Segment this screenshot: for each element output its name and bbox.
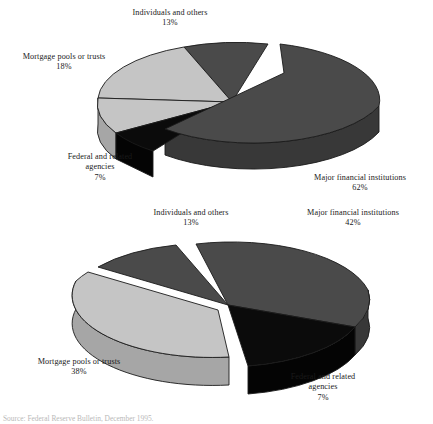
bottom-label-mortgage-pools-or-trusts: Mortgage pools or trusts 38%: [8, 357, 150, 378]
top-label-mortgage-pct: 18%: [1, 62, 127, 72]
top-label-individuals-and-others: Individuals and others 13%: [99, 8, 241, 29]
bottom-label-mortgage-name: Mortgage pools or trusts: [38, 357, 121, 366]
top-label-federal-pct: 7%: [40, 173, 160, 183]
bottom-label-major-name: Major financial institutions: [307, 208, 399, 217]
bottom-label-federal-and-related-agencies: Federal and related agencies 7%: [260, 372, 386, 403]
bottom-label-federal-pct: 7%: [260, 393, 386, 403]
top-label-mortgage-pools-or-trusts: Mortgage pools or trusts 18%: [1, 52, 127, 73]
source-note: Source: Federal Reserve Bulletin, Decemb…: [3, 414, 153, 423]
bottom-label-mortgage-pct: 38%: [8, 367, 150, 377]
top-label-major-financial-institutions: Major financial institutions 62%: [288, 173, 432, 194]
top-label-individuals-name: Individuals and others: [133, 8, 208, 17]
top-label-major-pct: 62%: [288, 183, 432, 193]
bottom-label-individuals-pct: 13%: [120, 218, 262, 228]
top-label-mortgage-name: Mortgage pools or trusts: [23, 52, 106, 61]
top-label-federal-line1: Federal and related: [68, 152, 133, 161]
bottom-label-individuals-and-others: Individuals and others 13%: [120, 208, 262, 229]
bottom-label-major-pct: 42%: [278, 218, 428, 228]
top-label-major-name: Major financial institutions: [314, 173, 406, 182]
bottom-label-federal-line1: Federal and related: [291, 372, 356, 381]
top-label-federal-and-related-agencies: Federal and related agencies 7%: [40, 152, 160, 183]
bottom-label-major-financial-institutions: Major financial institutions 42%: [278, 208, 428, 229]
bottom-label-federal-line2: agencies: [260, 382, 386, 392]
pie-chart-figure: .s-dark { fill: #4a4a4a; } .s-dark-side …: [0, 0, 433, 424]
bottom-label-individuals-name: Individuals and others: [154, 208, 229, 217]
top-label-individuals-pct: 13%: [99, 18, 241, 28]
top-label-federal-line2: agencies: [40, 162, 160, 172]
